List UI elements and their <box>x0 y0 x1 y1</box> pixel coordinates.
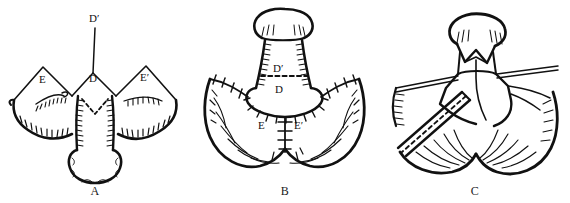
panel-c-caption: C <box>380 184 570 199</box>
label-e-prime-a: E′ <box>140 71 149 83</box>
panel-b-caption: B <box>190 184 380 199</box>
panel-a-caption: A <box>0 184 190 199</box>
left-scrotal-lobe-b <box>205 79 285 167</box>
right-scrotal-contour <box>118 100 176 139</box>
panel-c: C <box>380 0 570 203</box>
glans-texture-b <box>262 25 305 36</box>
panel-b: D′ D E E′ B <box>190 0 380 203</box>
body-top-outline-c <box>458 71 496 74</box>
left-limb-c <box>458 52 460 74</box>
left-suture-stitches-b <box>213 75 242 98</box>
right-tail-branch2-c <box>511 94 540 110</box>
left-outer-hatching <box>20 116 68 137</box>
label-e-prime-b: E′ <box>294 119 303 131</box>
left-inner-curl <box>62 92 68 97</box>
panel-b-illustration: D′ D E E′ <box>190 0 380 203</box>
right-suture-tail-lower-c <box>497 70 558 78</box>
right-scrotal-lobe-c <box>476 92 557 174</box>
label-d-a: D <box>89 72 97 84</box>
label-d-prime-b: D′ <box>273 62 283 74</box>
right-limb-c <box>493 52 496 74</box>
right-tail-branch-c <box>508 86 550 98</box>
label-e-a: E <box>39 73 46 85</box>
left-scrotal-contour <box>14 100 72 139</box>
right-suture-tail-upper-c <box>497 66 558 74</box>
panel-c-illustration <box>380 0 570 203</box>
right-outer-hatching <box>122 116 170 137</box>
drain-edge-upper-c <box>398 92 462 148</box>
figure-root: D′ D E E′ A <box>0 0 570 203</box>
body-midline-fold-c <box>476 60 486 120</box>
right-suture-stitches-b <box>327 75 356 98</box>
shaft-right-wall <box>112 96 114 150</box>
body-right-outline-c <box>494 74 511 126</box>
glans-outline-a <box>69 150 121 183</box>
base-ring-b <box>246 88 322 117</box>
panel-a: D′ D E E′ A <box>0 0 190 203</box>
corona-line-b <box>262 38 304 40</box>
right-lobe-rugae-c <box>480 100 553 168</box>
glans-texture-c <box>457 30 502 44</box>
drain-lumen-dashes-c <box>402 96 466 152</box>
panel-a-illustration: D′ D E E′ <box>0 0 190 203</box>
label-e-b: E <box>258 119 265 131</box>
label-d-prime-a: D′ <box>89 12 99 24</box>
dashed-chevron-marking <box>82 99 108 114</box>
left-lobe-rugae-c <box>416 130 472 168</box>
label-d-b: D <box>275 83 283 95</box>
shaft-left-wall <box>76 96 78 150</box>
drain-edge-lower-c <box>406 100 470 156</box>
midline-marking-a <box>93 28 95 73</box>
left-inner-hatching <box>36 98 66 111</box>
